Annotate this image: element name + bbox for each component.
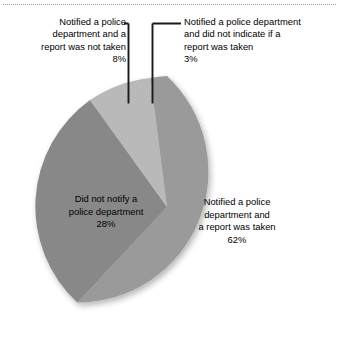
pie-chart-figure: Notified a police department and a repor…: [0, 0, 339, 345]
slice-label-report-taken: Notified a police department and a repor…: [175, 196, 299, 246]
callout-label-did-not-indicate: Notified a police department and did not…: [184, 16, 334, 66]
slice-label-did-not-notify: Did not notify a police department 28%: [42, 193, 170, 231]
callout-label-report-not-taken: Notified a police department and a repor…: [8, 16, 126, 66]
